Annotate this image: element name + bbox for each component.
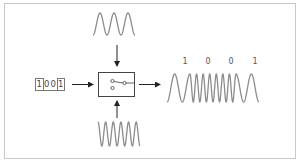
input-bit-0: 1	[35, 78, 44, 91]
low-frequency-wave	[93, 13, 135, 35]
input-bit-3: 1	[57, 78, 66, 91]
output-label-0: 1	[181, 57, 189, 66]
output-label-3: 1	[251, 57, 259, 66]
switch-contact-top	[111, 79, 114, 82]
switch-pivot	[123, 81, 126, 84]
fsk-output-wave	[167, 74, 259, 102]
high-frequency-wave	[98, 122, 140, 146]
switch-contact-bottom	[111, 86, 114, 89]
output-label-2: 0	[227, 57, 235, 66]
output-label-1: 0	[204, 57, 212, 66]
switch-box	[99, 73, 135, 97]
input-bits: 1 0 0 1	[35, 78, 65, 91]
